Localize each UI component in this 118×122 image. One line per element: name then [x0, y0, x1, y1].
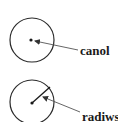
radius-pointer-arrow: [43, 97, 80, 112]
radius-label: radiws: [82, 109, 118, 122]
centre-figure: canol: [10, 18, 110, 62]
radius-line: [32, 87, 50, 103]
centre-pointer-arrow: [35, 41, 78, 50]
circle-parts-diagram: canol radiws: [0, 0, 118, 122]
circle-outline: [10, 80, 54, 122]
centre-point-icon: [29, 38, 32, 41]
centre-label: canol: [80, 43, 110, 58]
radius-figure: radiws: [10, 80, 118, 122]
